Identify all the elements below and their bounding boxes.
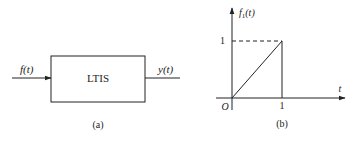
signal-f1 — [232, 41, 282, 98]
block-label: LTIS — [87, 72, 109, 84]
x-tick-label: 1 — [280, 100, 285, 111]
output-label: y(t) — [157, 63, 174, 76]
x-axis-label: t — [339, 83, 342, 94]
origin-label: O — [221, 101, 228, 112]
y-axis-label: f1(t) — [239, 7, 255, 20]
figure-a: f(t) LTIS y(t) (a) — [12, 56, 180, 131]
figure-b: f1(t) 1 1 O t (b) — [216, 7, 345, 130]
input-label: f(t) — [20, 63, 34, 76]
caption-b: (b) — [276, 118, 288, 130]
caption-a: (a) — [92, 119, 103, 131]
diagram-canvas: f(t) LTIS y(t) (a) f1(t) 1 1 O t (b) — [0, 0, 353, 143]
y-tick-label: 1 — [220, 35, 225, 46]
